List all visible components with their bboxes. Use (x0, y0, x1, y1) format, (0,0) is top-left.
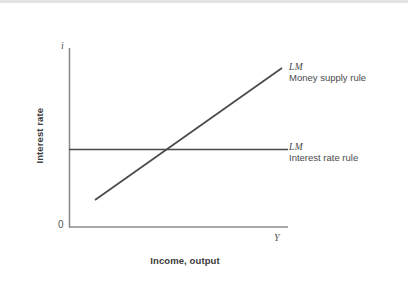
y-axis-symbol: i (61, 41, 64, 51)
lm-curve-figure: i Y 0 Interest rate Income, output LM Mo… (0, 0, 408, 299)
lm-curve-money-supply-rule (95, 68, 282, 200)
x-axis-symbol: Y (274, 233, 280, 243)
y-axis-title: Interest rate (35, 91, 45, 181)
curve-description-interest-rate: Interest rate rule (289, 152, 358, 165)
origin-label: 0 (58, 220, 64, 230)
curve-description-money-supply: Money supply rule (289, 72, 366, 85)
annotation-interest-rate-rule: LM Interest rate rule (289, 142, 358, 165)
curve-label-lm-money-supply: LM (289, 62, 366, 72)
x-axis-title: Income, output (120, 256, 250, 266)
curve-label-lm-interest-rate: LM (289, 142, 358, 152)
annotation-money-supply-rule: LM Money supply rule (289, 62, 366, 85)
